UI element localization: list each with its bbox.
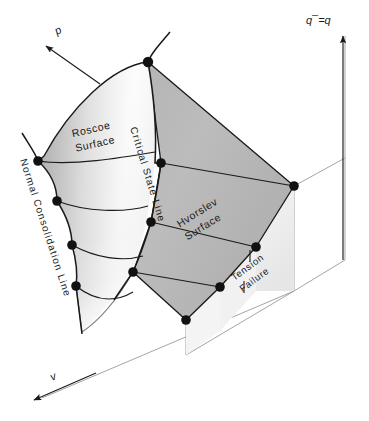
node-hv-right-1 bbox=[289, 181, 299, 191]
v-axis bbox=[34, 373, 96, 400]
frame-plane-edge-right bbox=[294, 260, 345, 291]
node-ncl-4 bbox=[71, 281, 81, 291]
node-ncl-1 bbox=[33, 156, 43, 166]
p-axis bbox=[46, 46, 100, 84]
node-csl-2 bbox=[146, 217, 156, 227]
node-hv-right-2 bbox=[251, 242, 261, 252]
diagram-canvas: q¯=q p v bbox=[0, 0, 369, 421]
v-axis-label: v bbox=[48, 369, 59, 383]
p-axis-label: p bbox=[51, 23, 63, 37]
node-ncl-3 bbox=[67, 240, 77, 250]
node-ncl-2 bbox=[52, 196, 62, 206]
node-apex bbox=[143, 57, 153, 67]
state-boundary-surface-diagram: q¯=q p v bbox=[0, 0, 369, 421]
frame-plane-edge-top bbox=[294, 158, 345, 186]
node-hv-right-4 bbox=[181, 315, 191, 325]
v-axis-arrow bbox=[34, 373, 96, 400]
node-csl-3 bbox=[128, 267, 138, 277]
q-axis-label: q¯=q bbox=[306, 14, 332, 26]
node-hv-right-3 bbox=[215, 282, 225, 292]
p-axis-arrow bbox=[46, 46, 100, 84]
node-csl-1 bbox=[156, 158, 166, 168]
